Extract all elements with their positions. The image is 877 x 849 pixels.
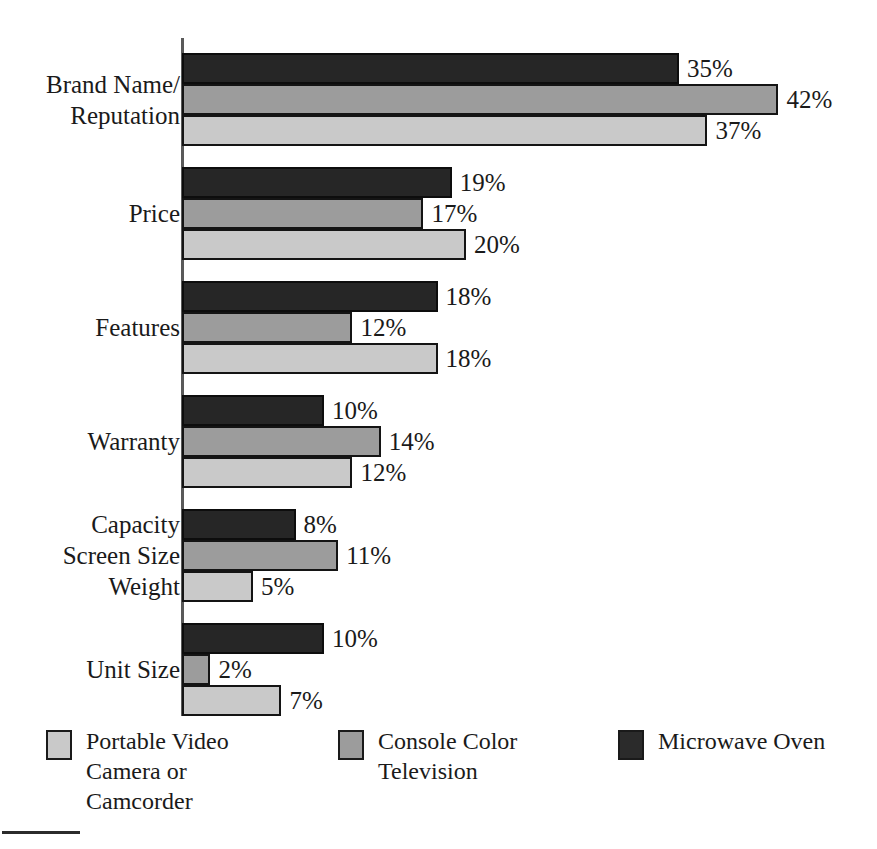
bar-row: 42% <box>182 84 877 115</box>
bar-row: 17% <box>182 198 563 229</box>
legend-item-microwave: Microwave Oven <box>618 726 825 760</box>
bar-value-label: 17% <box>423 198 477 229</box>
bar-group: Price19%17%20% <box>0 167 877 260</box>
legend-swatch-microwave <box>618 730 644 760</box>
bar-value-label: 20% <box>466 229 520 260</box>
legend-label: Microwave Oven <box>658 726 825 756</box>
bar-television <box>182 426 381 457</box>
bar-microwave <box>182 395 324 426</box>
legend-swatch-television <box>338 730 364 760</box>
category-label: Weight <box>0 571 180 602</box>
bar-row: 12% <box>182 457 492 488</box>
legend-swatch-camcorder <box>46 730 72 760</box>
bar-row: 18% <box>182 343 578 374</box>
legend-item-television: Console Color Television <box>338 726 517 786</box>
chart-legend: Portable Video Camera or CamcorderConsol… <box>0 726 877 822</box>
plot-area: Brand Name/ Reputation35%42%37%Price19%1… <box>0 0 877 720</box>
bar-row: 5% <box>182 571 393 602</box>
bar-television <box>182 654 210 685</box>
bar-camcorder <box>182 343 438 374</box>
category-label: Unit Size <box>0 654 180 685</box>
footer-rule <box>2 831 80 834</box>
bar-value-label: 8% <box>296 509 337 540</box>
category-label: Screen Size <box>0 540 180 571</box>
bar-value-label: 18% <box>438 281 492 312</box>
bar-group: Features18%12%18% <box>0 281 877 374</box>
bar-value-label: 12% <box>352 457 406 488</box>
bar-microwave <box>182 509 296 540</box>
bar-row: 20% <box>182 229 606 260</box>
bar-microwave <box>182 167 452 198</box>
category-label: Brand Name/ Reputation <box>0 69 180 131</box>
bar-camcorder <box>182 457 352 488</box>
bar-value-label: 42% <box>778 84 832 115</box>
bar-row: 11% <box>182 540 478 571</box>
bar-row: 19% <box>182 167 592 198</box>
bar-value-label: 14% <box>381 426 435 457</box>
bar-microwave <box>182 281 438 312</box>
bar-value-label: 2% <box>210 654 251 685</box>
legend-label: Console Color Television <box>378 726 517 786</box>
bar-row: 8% <box>182 509 436 540</box>
bar-value-label: 5% <box>253 571 294 602</box>
bar-value-label: 7% <box>281 685 322 716</box>
category-label: Features <box>0 312 180 343</box>
bar-value-label: 37% <box>707 115 761 146</box>
bar-value-label: 12% <box>352 312 406 343</box>
bar-television <box>182 540 338 571</box>
bar-row: 35% <box>182 53 819 84</box>
bar-group: Brand Name/ Reputation35%42%37% <box>0 53 877 146</box>
bar-television <box>182 198 423 229</box>
bar-television <box>182 84 778 115</box>
bar-value-label: 35% <box>679 53 733 84</box>
bar-television <box>182 312 352 343</box>
bar-value-label: 19% <box>452 167 506 198</box>
bar-microwave <box>182 53 679 84</box>
bar-row: 7% <box>182 685 421 716</box>
bar-row: 2% <box>182 654 350 685</box>
bar-row: 37% <box>182 115 847 146</box>
bar-row: 10% <box>182 623 464 654</box>
bar-value-label: 10% <box>324 395 378 426</box>
legend-item-camcorder: Portable Video Camera or Camcorder <box>46 726 229 816</box>
bar-microwave <box>182 623 324 654</box>
bar-group: CapacityScreen SizeWeight8%11%5% <box>0 509 877 602</box>
bar-group: Unit Size10%2%7% <box>0 623 877 716</box>
bar-camcorder <box>182 229 466 260</box>
bar-value-label: 11% <box>338 540 391 571</box>
bar-camcorder <box>182 685 281 716</box>
bar-chart-figure: Brand Name/ Reputation35%42%37%Price19%1… <box>0 0 877 849</box>
bar-value-label: 18% <box>438 343 492 374</box>
bar-row: 14% <box>182 426 521 457</box>
bar-row: 12% <box>182 312 492 343</box>
bar-value-label: 10% <box>324 623 378 654</box>
category-label: Warranty <box>0 426 180 457</box>
bar-camcorder <box>182 571 253 602</box>
category-label: Capacity <box>0 509 180 540</box>
bar-row: 18% <box>182 281 578 312</box>
category-label: Price <box>0 198 180 229</box>
legend-label: Portable Video Camera or Camcorder <box>86 726 229 816</box>
bar-camcorder <box>182 115 707 146</box>
bar-row: 10% <box>182 395 464 426</box>
bar-group: Warranty10%14%12% <box>0 395 877 488</box>
